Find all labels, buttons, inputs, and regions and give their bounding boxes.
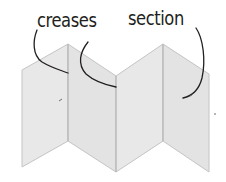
section-panel-4	[163, 44, 209, 172]
section-panel-2	[68, 44, 116, 172]
section-label: section	[128, 9, 184, 28]
folded-paper-diagram: creases section	[0, 0, 226, 182]
creases-label: creases	[37, 11, 96, 30]
section-panel-3	[116, 44, 163, 172]
diagram-canvas	[0, 0, 226, 182]
section-panel-1	[22, 44, 68, 167]
